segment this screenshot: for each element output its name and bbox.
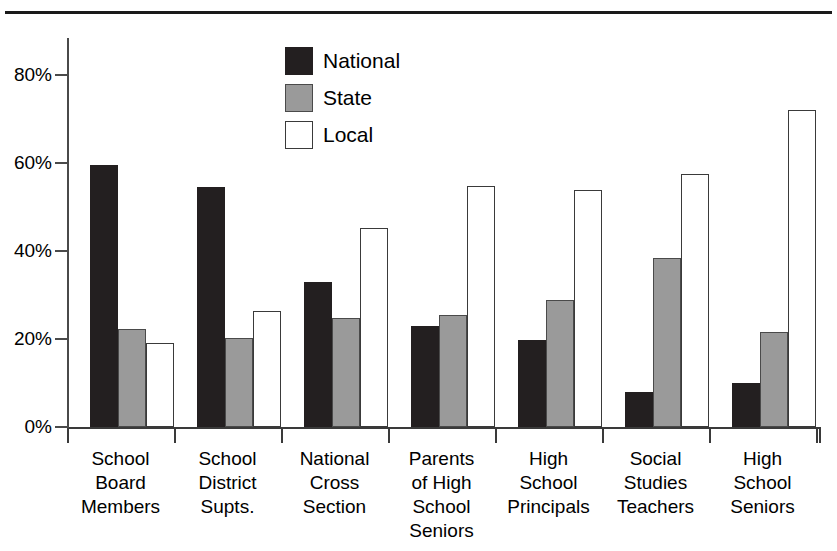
bar-local xyxy=(467,186,495,427)
y-axis-tick xyxy=(55,338,69,340)
category-label-line: School xyxy=(67,447,174,471)
category-label-line: Cross xyxy=(281,471,388,495)
category-label-line: Principals xyxy=(495,495,602,519)
category-label-line: Social xyxy=(602,447,709,471)
category-label-line: National xyxy=(281,447,388,471)
y-axis-tick-label-text: 80% xyxy=(0,65,52,84)
bar-national xyxy=(411,326,439,427)
bar-local xyxy=(253,311,281,427)
x-axis-group-tick xyxy=(816,429,818,443)
legend-item-label: State xyxy=(323,87,372,109)
y-axis-tick-label: 60% xyxy=(0,153,52,172)
category-label-line: of High xyxy=(388,471,495,495)
bar-national xyxy=(518,340,546,427)
bar-local xyxy=(574,190,602,427)
y-axis-tick-label: 20% xyxy=(0,329,52,348)
y-axis-tick-label-text: 0% xyxy=(0,417,52,436)
category-label-line: Parents xyxy=(388,447,495,471)
y-axis-tick-label-text: 60% xyxy=(0,153,52,172)
legend-swatch-icon xyxy=(285,47,313,75)
category-label-line: Studies xyxy=(602,471,709,495)
bar-national xyxy=(732,383,760,427)
category-label-line: School xyxy=(709,471,816,495)
x-axis-category-label: HighSchoolSeniors xyxy=(709,447,816,519)
category-label-line: Teachers xyxy=(602,495,709,519)
category-label-line: Section xyxy=(281,495,388,519)
bar-local xyxy=(681,174,709,427)
bar-state xyxy=(118,329,146,427)
category-label-line: High xyxy=(495,447,602,471)
grouped-bar-chart: 0%20%40%60%80% SchoolBoardMembersSchoolD… xyxy=(0,0,837,551)
x-axis-category-label: SchoolDistrictSupts. xyxy=(174,447,281,519)
x-axis-group-tick xyxy=(67,429,69,443)
bar-local xyxy=(360,228,388,427)
legend-item-label: National xyxy=(323,50,400,72)
legend-swatch-icon xyxy=(285,121,313,149)
x-axis-end-tick xyxy=(819,429,821,443)
y-axis-tick-label: 40% xyxy=(0,241,52,260)
x-axis-group-tick xyxy=(602,429,604,443)
category-label-line: Board xyxy=(67,471,174,495)
y-axis-tick xyxy=(55,162,69,164)
x-axis-group-tick xyxy=(388,429,390,443)
x-axis-category-label: Parentsof HighSchoolSeniors xyxy=(388,447,495,543)
x-axis-category-label: NationalCrossSection xyxy=(281,447,388,519)
bar-state xyxy=(225,338,253,427)
legend-swatch-icon xyxy=(285,84,313,112)
bar-local xyxy=(146,343,174,427)
bar-national xyxy=(304,282,332,427)
category-label-line: Members xyxy=(67,495,174,519)
y-axis-tick xyxy=(55,426,69,428)
bar-state xyxy=(546,300,574,427)
x-axis-group-tick xyxy=(709,429,711,443)
category-label-line: Supts. xyxy=(174,495,281,519)
bar-state xyxy=(332,318,360,427)
y-axis-line xyxy=(67,38,69,428)
bar-local xyxy=(788,110,816,427)
category-label-line: School xyxy=(495,471,602,495)
bar-state xyxy=(653,258,681,427)
bar-national xyxy=(625,392,653,427)
x-axis-category-label: SocialStudiesTeachers xyxy=(602,447,709,519)
bar-national xyxy=(197,187,225,427)
x-axis-group-tick xyxy=(281,429,283,443)
x-axis-category-label: HighSchoolPrincipals xyxy=(495,447,602,519)
bar-state xyxy=(439,315,467,427)
y-axis-tick-label-text: 20% xyxy=(0,329,52,348)
y-axis-tick-label-text: 40% xyxy=(0,241,52,260)
x-axis-category-label: SchoolBoardMembers xyxy=(67,447,174,519)
category-label-line: School xyxy=(388,495,495,519)
y-axis-tick xyxy=(55,250,69,252)
category-label-line: District xyxy=(174,471,281,495)
bar-state xyxy=(760,332,788,427)
y-axis-tick xyxy=(55,74,69,76)
x-axis-group-tick xyxy=(174,429,176,443)
y-axis-tick-label: 0% xyxy=(0,417,52,436)
category-label-line: School xyxy=(174,447,281,471)
legend-item-label: Local xyxy=(323,124,373,146)
bar-national xyxy=(90,165,118,427)
category-label-line: Seniors xyxy=(709,495,816,519)
category-label-line: Seniors xyxy=(388,519,495,543)
y-axis-tick-label: 80% xyxy=(0,65,52,84)
x-axis-line xyxy=(67,427,821,429)
x-axis-group-tick xyxy=(495,429,497,443)
category-label-line: High xyxy=(709,447,816,471)
